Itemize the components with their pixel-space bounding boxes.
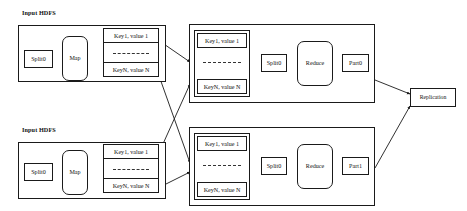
reduce-stage-bottom-split-box[interactable]: Split0 (261, 157, 287, 175)
reduce-stage-top-kv-separator (203, 62, 241, 63)
reduce-stage-top-reduce-box[interactable]: Reduce (297, 41, 333, 86)
map-stage-bottom-kv-first-label: Key1, value 1 (114, 149, 148, 155)
map-stage-bottom-kv-last[interactable]: KeyN, value N (103, 178, 159, 193)
reduce-stage-top-kv-first[interactable]: Key1, value 1 (197, 33, 247, 48)
reduce-stage-bottom-kv-separator (203, 165, 241, 166)
reduce-stage-bottom-part-box[interactable]: Part1 (342, 157, 369, 175)
map-stage-bottom-map-box[interactable]: Map (62, 150, 88, 195)
replication-label: Replication (420, 95, 447, 101)
map-stage-top-map-label: Map (69, 55, 80, 61)
map-stage-top-split-box[interactable]: Split0 (24, 50, 53, 68)
reduce-stage-bottom-kv-first-label: Key1, value 1 (205, 141, 239, 147)
mapreduce-dataflow-diagram: Input HDFS Split0 Map Key1, value 1 KeyN… (0, 0, 467, 211)
map-stage-bottom-group-label: Input HDFS (22, 126, 56, 133)
map-stage-top-kv-last[interactable]: KeyN, value N (103, 62, 159, 77)
reduce-stage-top-reduce-label: Reduce (306, 60, 324, 66)
reduce-stage-bottom-kv-last-label: KeyN, value N (204, 187, 241, 193)
map-stage-top-kv-last-label: KeyN, value N (113, 67, 150, 73)
map-stage-bottom-kv-first[interactable]: Key1, value 1 (103, 144, 159, 159)
map-stage-bottom-split-label: Split0 (31, 169, 46, 175)
map-stage-top-kv-first[interactable]: Key1, value 1 (103, 28, 159, 43)
map-stage-top-kv-separator (113, 53, 149, 54)
replication-box[interactable]: Replication (410, 88, 456, 107)
reduce-stage-bottom-kv-first[interactable]: Key1, value 1 (197, 136, 247, 151)
map-stage-bottom-split-box[interactable]: Split0 (24, 163, 53, 181)
map-stage-bottom-kv-separator (113, 169, 149, 170)
reduce-stage-bottom-reduce-box[interactable]: Reduce (297, 144, 333, 189)
reduce-stage-top-kv-last-label: KeyN, value N (204, 84, 241, 90)
reduce-stage-top-split-box[interactable]: Split0 (261, 54, 287, 72)
reduce-stage-top-kv-last[interactable]: KeyN, value N (197, 79, 247, 94)
map-stage-top-kv-first-label: Key1, value 1 (114, 33, 148, 39)
reduce-stage-top-part-label: Part0 (349, 60, 362, 66)
reduce-stage-bottom-split-label: Split0 (267, 163, 282, 169)
map-stage-bottom-map-label: Map (69, 169, 80, 175)
map-stage-top-split-label: Split0 (31, 56, 46, 62)
map-stage-bottom-kv-last-label: KeyN, value N (113, 183, 150, 189)
reduce-stage-top-split-label: Split0 (267, 60, 282, 66)
reduce-stage-bottom-part-label: Part1 (349, 163, 362, 169)
reduce-stage-bottom-kv-last[interactable]: KeyN, value N (197, 182, 247, 197)
map-stage-top-map-box[interactable]: Map (62, 36, 88, 81)
reduce-stage-top-part-box[interactable]: Part0 (342, 54, 369, 72)
reduce-stage-bottom-reduce-label: Reduce (306, 163, 324, 169)
map-stage-top-group-label: Input HDFS (22, 9, 56, 16)
reduce-stage-top-kv-first-label: Key1, value 1 (205, 38, 239, 44)
